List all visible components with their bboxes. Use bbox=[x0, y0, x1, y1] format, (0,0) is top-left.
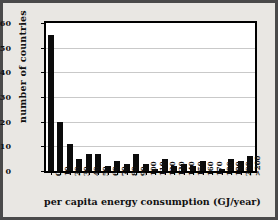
x-tick-mark bbox=[136, 171, 137, 175]
x-tick-mark bbox=[127, 171, 128, 175]
x-tick-mark bbox=[89, 171, 90, 175]
x-tick-label: 150 bbox=[196, 161, 205, 176]
x-tick-label: 0 bbox=[54, 171, 63, 176]
x-tick-label: 20 bbox=[73, 166, 82, 176]
x-tick-label: 180 bbox=[225, 161, 234, 176]
histogram-figure: number of countries 0102030405060 010203… bbox=[3, 3, 275, 217]
x-tick-mark bbox=[231, 171, 232, 175]
y-tick-mark bbox=[41, 23, 45, 24]
y-tick-label: 0 bbox=[0, 166, 11, 176]
x-tick-mark bbox=[98, 171, 99, 175]
y-axis-title: number of countries bbox=[17, 2, 28, 132]
x-tick-label: >200 bbox=[253, 156, 262, 176]
y-tick-label: 50 bbox=[0, 43, 11, 53]
x-tick-mark bbox=[108, 171, 109, 175]
y-tick-label: 60 bbox=[0, 18, 11, 28]
y-tick-mark bbox=[41, 146, 45, 147]
y-tick-mark bbox=[41, 72, 45, 73]
y-tick-mark bbox=[41, 122, 45, 123]
x-tick-label: 40 bbox=[92, 166, 101, 176]
x-tick-label: 130 bbox=[177, 161, 186, 176]
x-tick-label: 110 bbox=[158, 161, 167, 176]
x-tick-mark bbox=[222, 171, 223, 175]
x-tick-label: 90 bbox=[139, 166, 148, 176]
x-tick-mark bbox=[155, 171, 156, 175]
x-tick-mark bbox=[79, 171, 80, 175]
x-tick-mark bbox=[165, 171, 166, 175]
y-tick-mark bbox=[41, 171, 45, 172]
x-tick-label: 140 bbox=[187, 161, 196, 176]
x-tick-label: 50 bbox=[101, 166, 110, 176]
figure-page: number of countries 0102030405060 010203… bbox=[0, 0, 278, 220]
x-axis-title: per capita energy consumption (GJ/year) bbox=[44, 196, 257, 207]
bar bbox=[57, 122, 63, 171]
x-tick-mark bbox=[117, 171, 118, 175]
x-tick-mark bbox=[51, 171, 52, 175]
bar bbox=[48, 35, 54, 171]
bar-series bbox=[46, 23, 255, 171]
x-tick-mark bbox=[60, 171, 61, 175]
x-tick-mark bbox=[212, 171, 213, 175]
x-tick-mark bbox=[203, 171, 204, 175]
y-tick-mark bbox=[41, 48, 45, 49]
x-tick-label: 70 bbox=[120, 166, 129, 176]
x-tick-mark bbox=[184, 171, 185, 175]
x-tick-label: 100 bbox=[149, 161, 158, 176]
x-tick-label: 10 bbox=[63, 166, 72, 176]
x-tick-label: 80 bbox=[130, 166, 139, 176]
x-tick-label: 170 bbox=[215, 161, 224, 176]
x-tick-mark bbox=[250, 171, 251, 175]
x-tick-label: 60 bbox=[111, 166, 120, 176]
x-tick-label: 30 bbox=[82, 166, 91, 176]
plot-area: 0102030405060 01020304050607080901001101… bbox=[44, 21, 257, 173]
y-tick-label: 10 bbox=[0, 141, 11, 151]
x-tick-label: 160 bbox=[206, 161, 215, 176]
x-tick-label: 190 bbox=[234, 161, 243, 176]
x-tick-mark bbox=[241, 171, 242, 175]
y-tick-label: 20 bbox=[0, 117, 11, 127]
y-tick-label: 40 bbox=[0, 67, 11, 77]
x-tick-mark bbox=[174, 171, 175, 175]
x-tick-label: 120 bbox=[168, 161, 177, 176]
y-tick-label: 30 bbox=[0, 92, 11, 102]
x-tick-mark bbox=[146, 171, 147, 175]
x-tick-mark bbox=[70, 171, 71, 175]
x-tick-mark bbox=[193, 171, 194, 175]
y-tick-mark bbox=[41, 97, 45, 98]
x-tick-label: 200 bbox=[244, 161, 253, 176]
